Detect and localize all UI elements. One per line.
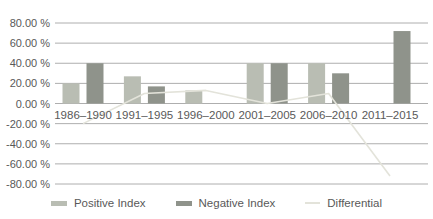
legend-item-negative-index: Negative Index	[176, 197, 276, 209]
y-tick-label-5: -20.00 %	[6, 118, 50, 130]
y-tick-label-7: -60.00 %	[6, 158, 50, 170]
legend-label-differential: Differential	[327, 197, 382, 209]
bar-positive-index-3	[247, 63, 264, 103]
y-tick-label-3: 20.00 %	[10, 77, 51, 89]
legend-item-differential: Differential	[305, 197, 382, 209]
bar-negative-index-0	[87, 63, 104, 103]
y-tick-label-6: -40.00 %	[6, 138, 50, 150]
legend: Positive Index Negative Index Differenti…	[0, 190, 433, 219]
differential-line-swatch	[305, 202, 320, 204]
y-tick-label-4: 0.00 %	[16, 98, 50, 110]
y-tick-label-8: -80.00 %	[6, 178, 50, 190]
negative-index-swatch	[176, 201, 192, 206]
x-tick-label-1: 1991–1995	[116, 109, 174, 121]
y-tick-label-2: 40.00 %	[10, 57, 51, 69]
x-tick-label-2: 1996–2000	[177, 109, 235, 121]
y-tick-label-1: 60.00 %	[10, 37, 51, 49]
bar-positive-index-2	[185, 90, 202, 103]
bar-positive-index-4	[308, 63, 325, 103]
legend-item-positive-index: Positive Index	[51, 197, 146, 209]
bar-line-chart: 80.00 %60.00 %40.00 %20.00 %0.00 %-20.00…	[0, 0, 433, 190]
bar-positive-index-0	[63, 83, 80, 103]
x-tick-label-3: 2001–2005	[238, 109, 296, 121]
positive-index-swatch	[51, 201, 67, 206]
bar-negative-index-3	[271, 63, 288, 103]
chart-container: 80.00 %60.00 %40.00 %20.00 %0.00 %-20.00…	[0, 0, 433, 219]
legend-label-positive-index: Positive Index	[74, 197, 146, 209]
bar-negative-index-5	[394, 31, 411, 103]
legend-label-negative-index: Negative Index	[199, 197, 276, 209]
x-tick-label-0: 1986–1990	[54, 109, 112, 121]
bar-negative-index-4	[332, 73, 349, 103]
x-tick-label-5: 2011–2015	[362, 109, 419, 121]
x-tick-label-4: 2006–2010	[300, 109, 358, 121]
y-tick-label-0: 80.00 %	[10, 17, 51, 29]
bar-negative-index-1	[148, 86, 165, 103]
